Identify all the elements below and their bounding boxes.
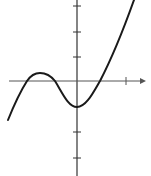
x-axis-arrow-icon	[140, 78, 146, 84]
function-curve	[8, 0, 134, 120]
function-plot	[0, 0, 151, 176]
y-axis	[73, 0, 81, 176]
